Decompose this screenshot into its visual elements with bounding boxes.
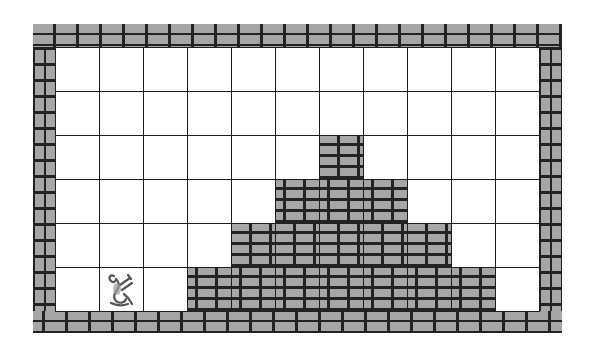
empty-cell[interactable] [231, 47, 276, 92]
empty-cell[interactable] [187, 91, 232, 136]
empty-cell[interactable] [55, 135, 100, 180]
empty-cell[interactable] [55, 223, 100, 268]
brick-cell[interactable] [407, 223, 452, 268]
empty-cell[interactable] [363, 135, 408, 180]
empty-cell[interactable] [99, 47, 144, 92]
empty-cell[interactable] [143, 135, 188, 180]
empty-cell[interactable] [495, 223, 540, 268]
lizard-icon[interactable] [99, 267, 143, 311]
brick-cell[interactable] [363, 179, 408, 224]
wall-top [33, 24, 562, 47]
brick-cell[interactable] [363, 267, 408, 312]
empty-cell[interactable] [451, 179, 496, 224]
empty-cell[interactable] [495, 179, 540, 224]
brick-cell[interactable] [319, 135, 364, 180]
empty-cell[interactable] [275, 135, 320, 180]
empty-cell[interactable] [451, 91, 496, 136]
brick-cell[interactable] [319, 179, 364, 224]
brick-cell[interactable] [363, 223, 408, 268]
empty-cell[interactable] [407, 91, 452, 136]
empty-cell[interactable] [319, 47, 364, 92]
brick-cell[interactable] [187, 267, 232, 312]
empty-cell[interactable] [451, 47, 496, 92]
empty-cell[interactable] [143, 179, 188, 224]
brick-cell[interactable] [319, 267, 364, 312]
empty-cell[interactable] [143, 223, 188, 268]
empty-cell[interactable] [451, 223, 496, 268]
empty-cell[interactable] [407, 135, 452, 180]
empty-cell[interactable] [55, 179, 100, 224]
brick-cell[interactable] [231, 223, 276, 268]
empty-cell[interactable] [451, 135, 496, 180]
empty-cell[interactable] [407, 47, 452, 92]
empty-cell[interactable] [187, 47, 232, 92]
play-grid [55, 47, 539, 311]
game-board [33, 24, 562, 333]
empty-cell[interactable] [231, 91, 276, 136]
empty-cell[interactable] [143, 91, 188, 136]
empty-cell[interactable] [99, 179, 144, 224]
empty-cell[interactable] [231, 179, 276, 224]
brick-cell[interactable] [451, 267, 496, 312]
brick-cell[interactable] [319, 223, 364, 268]
empty-cell[interactable] [231, 135, 276, 180]
empty-cell[interactable] [407, 179, 452, 224]
brick-cell[interactable] [275, 179, 320, 224]
empty-cell[interactable] [143, 47, 188, 92]
empty-cell[interactable] [495, 267, 540, 312]
empty-cell[interactable] [99, 135, 144, 180]
brick-cell[interactable] [407, 267, 452, 312]
empty-cell[interactable] [363, 91, 408, 136]
empty-cell[interactable] [99, 91, 144, 136]
empty-cell[interactable] [363, 47, 408, 92]
brick-cell[interactable] [275, 267, 320, 312]
brick-cell[interactable] [231, 267, 276, 312]
empty-cell[interactable] [55, 47, 100, 92]
empty-cell[interactable] [187, 223, 232, 268]
empty-cell[interactable] [495, 47, 540, 92]
wall-right [539, 47, 562, 311]
empty-cell[interactable] [275, 47, 320, 92]
brick-cell[interactable] [275, 223, 320, 268]
empty-cell[interactable] [187, 179, 232, 224]
empty-cell[interactable] [495, 135, 540, 180]
empty-cell[interactable] [319, 91, 364, 136]
empty-cell[interactable] [55, 267, 100, 312]
empty-cell[interactable] [143, 267, 188, 312]
empty-cell[interactable] [275, 91, 320, 136]
empty-cell[interactable] [99, 223, 144, 268]
wall-bottom [33, 311, 562, 333]
empty-cell[interactable] [187, 135, 232, 180]
empty-cell[interactable] [495, 91, 540, 136]
wall-left [33, 47, 55, 311]
empty-cell[interactable] [55, 91, 100, 136]
